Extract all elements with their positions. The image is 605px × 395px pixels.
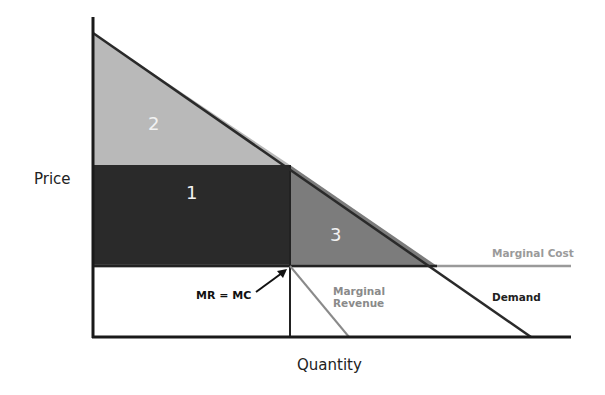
mr-equals-mc-label: MR = MC: [196, 289, 251, 302]
mr-mc-arrow: [256, 273, 282, 292]
region-3-deadweight-loss: [290, 165, 437, 266]
marginal-cost-label: Marginal Cost: [492, 247, 574, 259]
marginal-revenue-label-line2: Revenue: [333, 297, 384, 309]
region-3-label: 3: [330, 224, 341, 245]
diagram-canvas: [0, 0, 605, 395]
region-2-label: 2: [148, 113, 159, 134]
marginal-revenue-label-line1: Marginal: [333, 285, 385, 297]
y-axis-label: Price: [34, 170, 71, 188]
region-1-rectangle: [93, 165, 290, 266]
demand-label: Demand: [492, 291, 541, 303]
x-axis-label: Quantity: [297, 356, 362, 374]
region-1-label: 1: [186, 182, 197, 203]
